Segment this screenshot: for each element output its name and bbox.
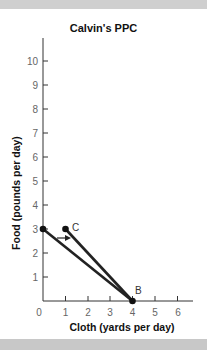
original-ppc-line (43, 229, 133, 301)
svg-text:8: 8 (32, 104, 38, 115)
point-b (129, 298, 136, 305)
svg-text:3: 3 (32, 224, 38, 235)
svg-text:10: 10 (27, 56, 39, 67)
point-b-label: B (135, 285, 142, 296)
svg-text:7: 7 (32, 128, 38, 139)
svg-text:4: 4 (130, 307, 136, 318)
x-tick-labels: 0 1 2 3 4 5 6 (36, 307, 181, 318)
svg-text:0: 0 (36, 307, 42, 318)
svg-text:2: 2 (32, 248, 38, 259)
y-ticks (43, 61, 48, 277)
shift-arrow-icon (57, 235, 71, 241)
x-axis-label: Cloth (yards per day) (69, 321, 174, 333)
shifted-ppc-line (66, 229, 133, 301)
svg-text:1: 1 (32, 272, 38, 283)
point-c-label: C (72, 222, 79, 233)
svg-text:2: 2 (85, 307, 91, 318)
svg-text:6: 6 (32, 152, 38, 163)
point-food-intercept (40, 226, 47, 233)
ppc-chart: 1 2 3 4 5 6 7 8 9 10 0 1 2 3 4 5 6 C B (0, 0, 207, 350)
svg-text:1: 1 (63, 307, 69, 318)
bottom-border-band (0, 339, 207, 350)
point-c (62, 226, 69, 233)
svg-text:4: 4 (32, 200, 38, 211)
svg-text:9: 9 (32, 80, 38, 91)
y-axis-label: Food (pounds per day) (10, 136, 22, 250)
y-tick-labels: 1 2 3 4 5 6 7 8 9 10 (27, 56, 39, 283)
svg-text:5: 5 (152, 307, 158, 318)
svg-text:5: 5 (32, 176, 38, 187)
x-ticks (66, 296, 178, 301)
svg-text:3: 3 (107, 307, 113, 318)
svg-text:6: 6 (175, 307, 181, 318)
